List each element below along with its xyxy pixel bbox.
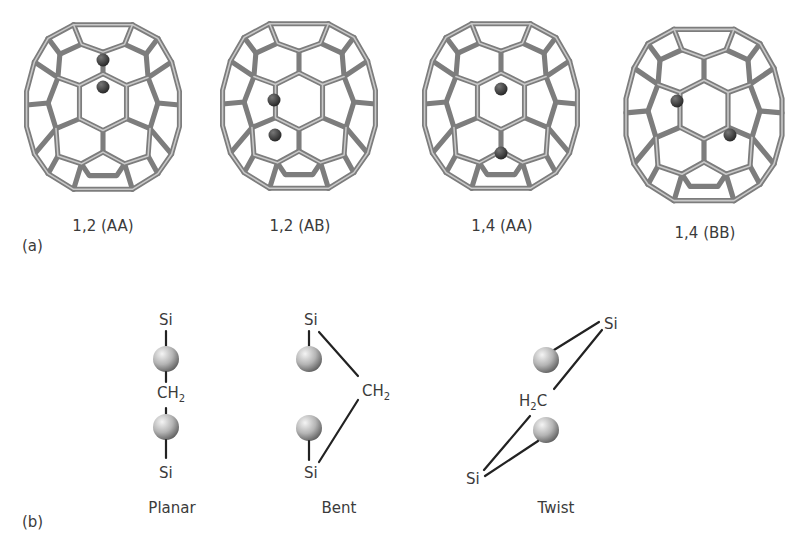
cage-label: 1,4 (BB) [675,224,736,242]
panel-b-label: (b) [22,513,43,531]
fullerene-cage-1-4-BB: 1,4 (BB) [626,29,782,242]
panel-a-label: (a) [22,237,43,255]
si-top-label: Si [304,311,318,329]
si-bottom-label: Si [466,470,480,488]
dopant-atom-icon [97,81,110,94]
figure-canvas: 1,2 (AA) 1,2 (AB) 1,4 (AA) 1,4 (BB) (a) [0,0,806,552]
fullerene-cage-1-2-AB: 1,2 (AB) [223,24,376,235]
si-bottom-label: Si [159,464,173,482]
panel-b: Si CH2 Si Planar Si CH2 Si Bent Si [22,311,618,531]
cage-label: 1,2 (AA) [72,217,133,235]
ch2-label: CH2 [362,382,390,402]
dopant-atom-icon [495,147,508,160]
dopant-atom-icon [724,129,737,142]
sphere-icon [533,347,559,373]
sphere-icon [296,346,322,372]
config-planar: Si CH2 Si Planar [148,311,196,517]
config-label: Twist [537,499,575,517]
config-twist: Si H2C Si Twist [466,315,618,517]
dopant-atom-icon [97,54,110,67]
sphere-icon [296,415,322,441]
fullerene-cage-1-2-AA: 1,2 (AA) [27,25,180,235]
ch2-label: CH2 [157,384,185,404]
dopant-atom-icon [671,95,684,108]
sphere-icon [153,346,179,372]
fullerene-cage-1-4-AA: 1,4 (AA) [425,24,578,235]
sphere-icon [153,414,179,440]
sphere-icon [533,417,559,443]
dopant-atom-icon [495,83,508,96]
dopant-atom-icon [268,94,281,107]
si-top-label: Si [604,315,618,333]
dopant-atom-icon [269,129,282,142]
config-bent: Si CH2 Si Bent [296,311,390,517]
si-bottom-label: Si [304,464,318,482]
si-top-label: Si [159,311,173,329]
cage-label: 1,4 (AA) [471,217,532,235]
h2c-label: H2C [519,392,547,412]
config-label: Planar [148,499,196,517]
config-label: Bent [322,499,357,517]
cage-label: 1,2 (AB) [270,217,331,235]
panel-a: 1,2 (AA) 1,2 (AB) 1,4 (AA) 1,4 (BB) (a) [22,24,782,255]
